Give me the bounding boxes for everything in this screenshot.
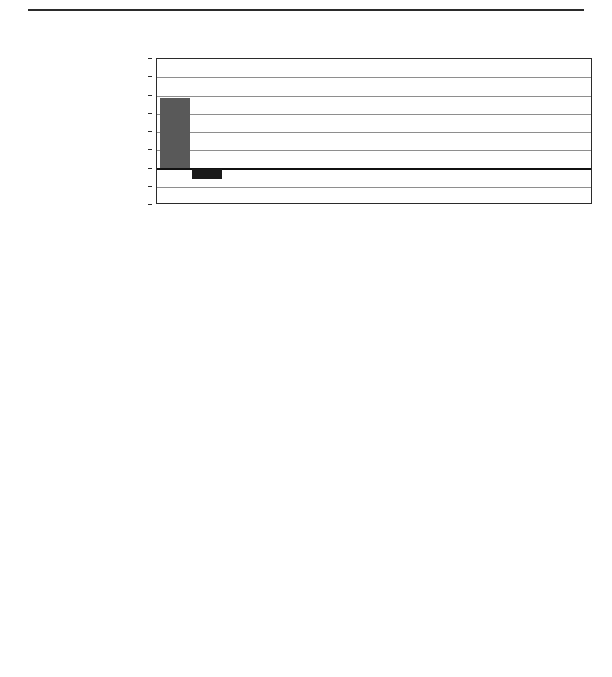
y-tick-mark xyxy=(148,95,152,96)
bar-group xyxy=(157,59,230,203)
y-tick-mark xyxy=(148,58,152,59)
bar-series xyxy=(160,98,191,168)
plot-area-a xyxy=(156,58,592,204)
y-tick-mark xyxy=(148,149,152,150)
y-tick-mark xyxy=(148,186,152,187)
page-top-rule xyxy=(28,9,584,11)
y-tick-mark xyxy=(148,204,152,205)
chart-panel-b xyxy=(0,239,612,435)
y-tick-mark xyxy=(148,76,152,77)
chart-panel-a xyxy=(0,26,612,222)
chart-panel-c xyxy=(0,452,612,652)
chart-title-a xyxy=(0,26,612,38)
y-tick-mark xyxy=(148,168,152,169)
bar-education xyxy=(192,169,223,179)
y-tick-mark xyxy=(148,113,152,114)
y-axis-ticks xyxy=(0,58,152,204)
y-tick-mark xyxy=(148,131,152,132)
